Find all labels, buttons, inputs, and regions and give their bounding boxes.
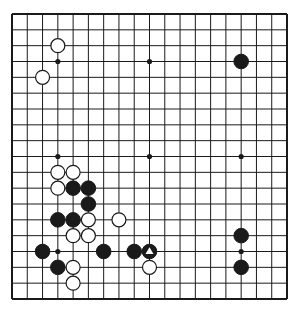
black-stone[interactable]	[127, 244, 142, 259]
black-stone[interactable]	[96, 244, 111, 259]
white-stone[interactable]	[66, 165, 80, 179]
black-stone[interactable]	[81, 197, 96, 212]
white-stone[interactable]	[112, 213, 126, 227]
black-stone[interactable]	[81, 181, 96, 196]
white-stone[interactable]	[66, 260, 80, 274]
star-point	[239, 154, 244, 159]
star-point	[55, 59, 60, 64]
star-point	[55, 249, 60, 254]
black-stone[interactable]	[51, 260, 66, 275]
white-stone[interactable]	[81, 213, 95, 227]
white-stone[interactable]	[66, 229, 80, 243]
white-stone[interactable]	[51, 39, 65, 53]
black-stone[interactable]	[234, 260, 249, 275]
white-stone[interactable]	[81, 229, 95, 243]
white-stone[interactable]	[51, 181, 65, 195]
black-stone[interactable]	[66, 181, 81, 196]
go-board[interactable]	[0, 0, 296, 309]
star-point	[239, 249, 244, 254]
black-stone[interactable]	[66, 213, 81, 228]
black-stone[interactable]	[35, 244, 50, 259]
white-stone[interactable]	[66, 276, 80, 290]
black-stone[interactable]	[51, 213, 66, 228]
black-stone[interactable]	[142, 244, 157, 259]
black-stone[interactable]	[234, 54, 249, 69]
star-point	[147, 154, 152, 159]
black-stone[interactable]	[234, 228, 249, 243]
star-point	[55, 154, 60, 159]
white-stone[interactable]	[51, 165, 65, 179]
white-stone[interactable]	[143, 260, 157, 274]
stones-layer	[35, 39, 248, 290]
white-stone[interactable]	[36, 70, 50, 84]
star-point	[147, 59, 152, 64]
